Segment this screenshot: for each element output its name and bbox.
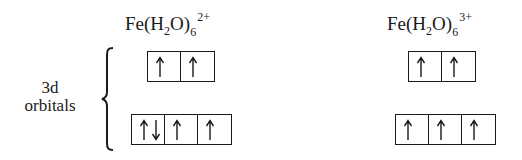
formula-part: Fe(H bbox=[125, 13, 164, 34]
lower-orbitals-fe2 bbox=[131, 114, 232, 145]
orbital-cell bbox=[132, 115, 165, 144]
orbital-cell bbox=[148, 52, 181, 81]
spin-down-arrow-icon bbox=[151, 119, 161, 141]
spin-up-arrow-icon bbox=[188, 56, 198, 78]
orbital-cell bbox=[181, 52, 214, 81]
formula-part: Fe(H bbox=[387, 13, 426, 34]
formula-charge: 3+ bbox=[459, 10, 472, 24]
orbital-label: 3d orbitals bbox=[10, 79, 90, 114]
orbital-cell bbox=[442, 52, 475, 81]
orbital-label-line1: 3d bbox=[10, 79, 90, 96]
orbital-cell bbox=[462, 115, 495, 144]
curly-brace-icon bbox=[100, 46, 116, 152]
formula-part: O) bbox=[432, 13, 452, 34]
orbital-cell bbox=[165, 115, 198, 144]
spin-up-arrow-icon bbox=[139, 119, 149, 141]
complex-title-fe3: Fe(H2O)63+ bbox=[387, 14, 472, 33]
formula-subscript: 2 bbox=[164, 24, 170, 38]
spin-up-arrow-icon bbox=[155, 56, 165, 78]
spin-up-arrow-icon bbox=[172, 119, 182, 141]
orbital-cell bbox=[396, 115, 429, 144]
spin-up-arrow-icon bbox=[416, 56, 426, 78]
spin-up-arrow-icon bbox=[436, 119, 446, 141]
lower-orbitals-fe3 bbox=[395, 114, 496, 145]
formula-part: O) bbox=[170, 13, 190, 34]
orbital-cell bbox=[198, 115, 231, 144]
spin-up-arrow-icon bbox=[205, 119, 215, 141]
formula-subscript: 6 bbox=[190, 25, 196, 39]
spin-up-arrow-icon bbox=[449, 56, 459, 78]
formula-charge: 2+ bbox=[197, 10, 210, 24]
formula-subscript: 6 bbox=[452, 25, 458, 39]
orbital-label-line2: orbitals bbox=[10, 97, 90, 114]
spin-up-arrow-icon bbox=[469, 119, 479, 141]
complex-title-fe2: Fe(H2O)62+ bbox=[125, 14, 210, 33]
orbital-cell bbox=[429, 115, 462, 144]
orbital-cell bbox=[409, 52, 442, 81]
spin-up-arrow-icon bbox=[403, 119, 413, 141]
upper-orbitals-fe2 bbox=[147, 51, 215, 82]
upper-orbitals-fe3 bbox=[408, 51, 476, 82]
formula-subscript: 2 bbox=[426, 24, 432, 38]
